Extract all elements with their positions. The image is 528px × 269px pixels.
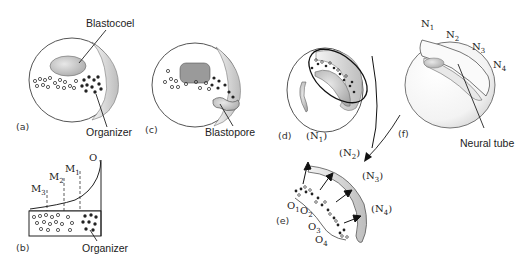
panel-label-d: (d) <box>278 130 291 141</box>
gradient-label-o: O <box>89 152 97 163</box>
neural-label-n1-paren: (N1) <box>306 130 327 144</box>
gradient-label-m1: M1 <box>65 163 80 177</box>
embryo-c <box>152 43 241 127</box>
panel-label-b: (b) <box>16 242 29 253</box>
neural-label-n3-paren: (N3) <box>362 170 383 184</box>
embryo-a <box>29 30 118 127</box>
neural-label-n4-paren: (N4) <box>371 203 392 217</box>
neural-label-n3: N3 <box>472 41 485 55</box>
neural-label-n1: N1 <box>421 18 434 32</box>
neural-label-n2-paren: (N2) <box>339 147 360 161</box>
embryo-d <box>287 39 400 162</box>
panel-label-f: (f) <box>398 128 409 139</box>
enlarged-section-e <box>295 162 367 242</box>
neural-label-n2: N2 <box>446 29 459 43</box>
gradient-label-m2: M2 <box>49 171 64 185</box>
gradient-label-m3: M3 <box>31 183 46 197</box>
panel-label-e: (e) <box>276 215 289 226</box>
callout-blastopore: Blastopore <box>205 126 255 138</box>
panel-label-a: (a) <box>16 121 29 132</box>
neural-label-n4: N4 <box>493 59 506 73</box>
callout-organizer-a: Organizer <box>86 126 132 138</box>
organizer-label-o3: O3 <box>308 221 321 235</box>
organizer-label-o1: O1 <box>287 200 300 214</box>
organizer-label-o4: O4 <box>315 234 328 248</box>
panel-label-c: (c) <box>145 124 158 135</box>
callout-neural-tube: Neural tube <box>460 137 514 149</box>
callout-organizer-b: Organizer <box>82 242 128 254</box>
organizer-label-o2: O2 <box>300 205 313 219</box>
callout-blastocoel: Blastocoel <box>86 17 134 29</box>
